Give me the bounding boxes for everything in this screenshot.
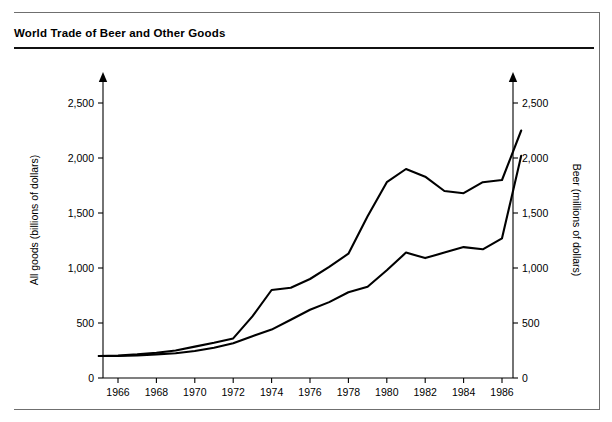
series-layer — [99, 131, 521, 357]
y-axis-tick-label: 1,000 — [68, 262, 94, 274]
x-axis-tick-label: 1976 — [298, 386, 322, 398]
left-axis-arrowhead — [99, 72, 107, 82]
y2-axis-tick-label: 2,000 — [522, 152, 548, 164]
y2-axis-tick-label: 500 — [522, 317, 540, 329]
x-axis-tick-label: 1986 — [490, 386, 514, 398]
y-axis-tick-label: 1,500 — [68, 207, 94, 219]
line-chart: 05001,0001,5002,0002,50005001,0001,5002,… — [0, 0, 612, 422]
x-axis-tick-label: 1980 — [375, 386, 399, 398]
x-axis-tick-label: 1970 — [183, 386, 207, 398]
figure-container: World Trade of Beer and Other Goods 0500… — [0, 0, 612, 422]
x-axis-tick-label: 1968 — [145, 386, 169, 398]
y2-axis-tick-label: 2,500 — [522, 97, 548, 109]
y-axis-tick-label: 0 — [88, 372, 94, 384]
y2-axis-tick-label: 0 — [522, 372, 528, 384]
y-axis-tick-label: 2,000 — [68, 152, 94, 164]
y-axis-tick-label: 2,500 — [68, 97, 94, 109]
right-axis-title: Beer (millions of dollars) — [571, 164, 583, 277]
axis-layer — [98, 72, 518, 383]
right-axis-arrowhead — [509, 72, 517, 82]
x-axis-tick-label: 1972 — [222, 386, 246, 398]
y-axis-tick-label: 500 — [76, 317, 94, 329]
series-line-all-goods — [99, 131, 521, 357]
series-line-beer — [99, 156, 521, 356]
y2-axis-tick-label: 1,000 — [522, 262, 548, 274]
x-axis-tick-label: 1982 — [414, 386, 438, 398]
x-axis-tick-label: 1978 — [337, 386, 361, 398]
x-axis-tick-label: 1966 — [106, 386, 130, 398]
left-axis-title: All goods (billions of dollars) — [28, 155, 40, 286]
x-axis-tick-label: 1974 — [260, 386, 284, 398]
label-layer: 05001,0001,5002,0002,50005001,0001,5002,… — [28, 97, 583, 398]
x-axis-tick-label: 1984 — [452, 386, 476, 398]
y2-axis-tick-label: 1,500 — [522, 207, 548, 219]
